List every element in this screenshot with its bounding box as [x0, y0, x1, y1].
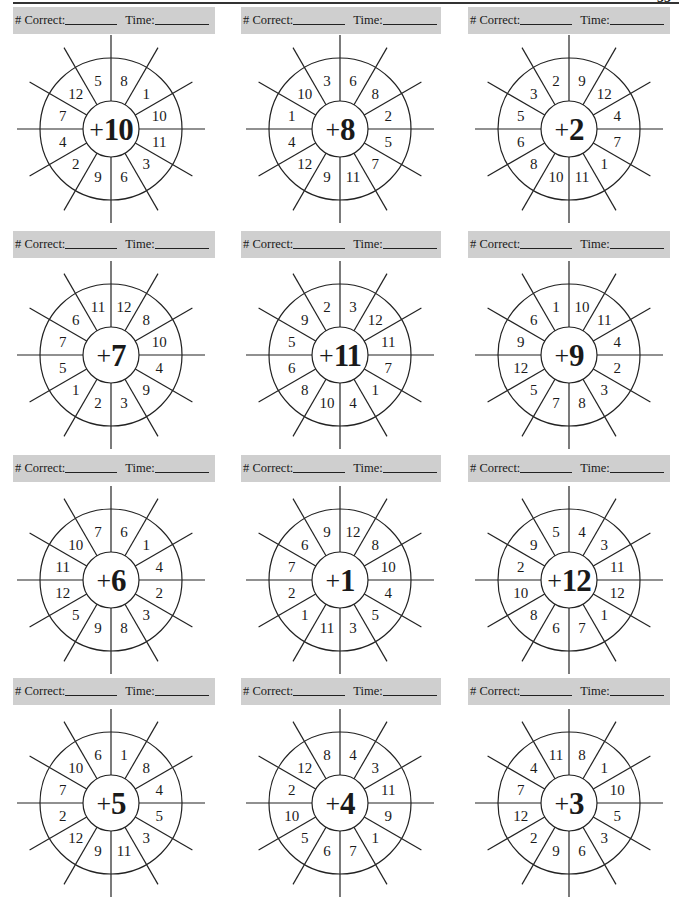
- correct-answer-blank[interactable]: [520, 455, 572, 473]
- sector-number: 9: [85, 841, 111, 861]
- time-answer-blank[interactable]: [610, 7, 664, 25]
- correct-answer-blank[interactable]: [293, 7, 345, 25]
- sector-number: 1: [133, 535, 159, 555]
- sector-number: 7: [279, 557, 305, 577]
- sector-number: 3: [362, 758, 388, 778]
- plus-sign: +: [325, 115, 340, 144]
- addition-wheel: 128104531112769+1: [240, 480, 440, 680]
- sector-number: 9: [85, 618, 111, 638]
- plus-sign: +: [319, 341, 334, 370]
- sector-number: 4: [279, 132, 305, 152]
- time-answer-blank[interactable]: [383, 7, 437, 25]
- sector-number: 6: [569, 841, 595, 861]
- plus-sign: +: [554, 341, 569, 370]
- sector-number: 5: [63, 605, 89, 625]
- sector-number: 9: [314, 167, 340, 187]
- score-header-bar: # Correct:Time:: [241, 678, 441, 705]
- sector-number: 10: [146, 106, 172, 126]
- sector-number: 10: [543, 167, 569, 187]
- addend-value: 2: [569, 112, 584, 147]
- score-header-bar: # Correct:Time:: [13, 678, 215, 705]
- correct-answer-blank[interactable]: [65, 455, 117, 473]
- sector-number: 1: [279, 106, 305, 126]
- time-label: Time:: [125, 678, 154, 705]
- time-answer-blank[interactable]: [155, 678, 209, 696]
- sector-number: 3: [591, 828, 617, 848]
- sector-number: 12: [50, 583, 76, 603]
- score-header-bar: # Correct:Time:: [241, 455, 441, 482]
- plus-sign: +: [96, 341, 111, 370]
- sector-number: 2: [375, 106, 401, 126]
- sector-number: 12: [508, 358, 534, 378]
- correct-answer-blank[interactable]: [293, 231, 345, 249]
- score-header-bar: # Correct:Time:: [468, 678, 670, 705]
- sector-number: 2: [604, 358, 630, 378]
- sector-number: 12: [591, 84, 617, 104]
- time-answer-blank[interactable]: [383, 678, 437, 696]
- correct-answer-blank[interactable]: [293, 455, 345, 473]
- sector-number: 1: [543, 297, 569, 317]
- wheel-center-addend: +4: [305, 783, 375, 823]
- time-answer-blank[interactable]: [610, 678, 664, 696]
- correct-answer-blank[interactable]: [520, 678, 572, 696]
- time-answer-blank[interactable]: [155, 455, 209, 473]
- sector-number: 3: [314, 71, 340, 91]
- sector-number: 2: [521, 828, 547, 848]
- time-answer-blank[interactable]: [383, 455, 437, 473]
- sector-number: 6: [85, 745, 111, 765]
- addend-value: 7: [111, 338, 126, 373]
- sector-number: 4: [375, 583, 401, 603]
- sector-number: 7: [362, 154, 388, 174]
- sector-number: 4: [146, 780, 172, 800]
- sector-number: 1: [591, 154, 617, 174]
- sector-number: 9: [314, 522, 340, 542]
- addend-value: 4: [340, 786, 355, 821]
- correct-answer-blank[interactable]: [65, 231, 117, 249]
- wheel-center-addend: +9: [534, 335, 604, 375]
- sector-number: 6: [508, 132, 534, 152]
- correct-answer-blank[interactable]: [293, 678, 345, 696]
- correct-label: # Correct:: [15, 678, 65, 705]
- addition-wheel: 431112176810295+12: [469, 480, 669, 680]
- correct-answer-blank[interactable]: [520, 231, 572, 249]
- correct-answer-blank[interactable]: [65, 678, 117, 696]
- score-header-bar: # Correct:Time:: [13, 231, 215, 258]
- correct-answer-blank[interactable]: [65, 7, 117, 25]
- sector-number: 8: [314, 745, 340, 765]
- sector-number: 2: [314, 297, 340, 317]
- sector-number: 4: [50, 132, 76, 152]
- sector-number: 10: [508, 583, 534, 603]
- time-answer-blank[interactable]: [155, 231, 209, 249]
- correct-label: # Correct:: [470, 455, 520, 482]
- addend-value: 6: [111, 563, 126, 598]
- sector-number: 1: [63, 380, 89, 400]
- time-label: Time:: [353, 231, 382, 258]
- addition-wheel: 811053692127411+3: [469, 703, 669, 901]
- sector-number: 8: [362, 84, 388, 104]
- addition-wheel: 811011369247125+10: [11, 29, 211, 229]
- sector-number: 2: [50, 806, 76, 826]
- sector-number: 3: [133, 154, 159, 174]
- addend-value: 9: [569, 338, 584, 373]
- plus-sign: +: [554, 789, 569, 818]
- time-answer-blank[interactable]: [383, 231, 437, 249]
- time-answer-blank[interactable]: [610, 231, 664, 249]
- time-label: Time:: [353, 455, 382, 482]
- sector-number: 4: [340, 393, 366, 413]
- wheel-center-addend: +7: [76, 335, 146, 375]
- sector-number: 4: [146, 358, 172, 378]
- page-number: 33: [657, 0, 671, 6]
- plus-sign: +: [96, 789, 111, 818]
- sector-number: 10: [604, 780, 630, 800]
- time-answer-blank[interactable]: [155, 7, 209, 25]
- correct-label: # Correct:: [15, 455, 65, 482]
- addend-value: 8: [340, 112, 355, 147]
- sector-number: 11: [604, 557, 630, 577]
- sector-number: 4: [146, 557, 172, 577]
- sector-number: 7: [50, 106, 76, 126]
- addition-wheel: 128104932157611+7: [11, 255, 211, 455]
- sector-number: 11: [375, 780, 401, 800]
- correct-label: # Correct:: [243, 231, 293, 258]
- correct-answer-blank[interactable]: [520, 7, 572, 25]
- time-answer-blank[interactable]: [610, 455, 664, 473]
